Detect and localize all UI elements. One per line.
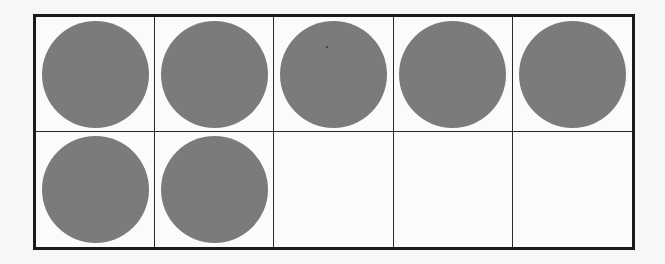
frame-cell-r1-c1 (36, 17, 155, 132)
counter-circle-icon (519, 21, 626, 128)
counter-circle-icon (161, 136, 268, 243)
ten-frame (33, 14, 635, 250)
counter-circle-icon (42, 136, 149, 243)
frame-cell-r1-c5 (513, 17, 632, 132)
frame-cell-r2-c3 (274, 132, 393, 247)
counter-circle-icon (42, 21, 149, 128)
frame-cell-r2-c5 (513, 132, 632, 247)
frame-cell-r2-c2 (155, 132, 274, 247)
frame-cell-r2-c1 (36, 132, 155, 247)
frame-cell-r1-c4 (394, 17, 513, 132)
frame-cell-r1-c3 (274, 17, 393, 132)
counter-circle-icon (161, 21, 268, 128)
counter-circle-icon (280, 21, 387, 128)
frame-cell-r1-c2 (155, 17, 274, 132)
print-speck (326, 46, 328, 48)
counter-circle-icon (399, 21, 506, 128)
frame-cell-r2-c4 (394, 132, 513, 247)
